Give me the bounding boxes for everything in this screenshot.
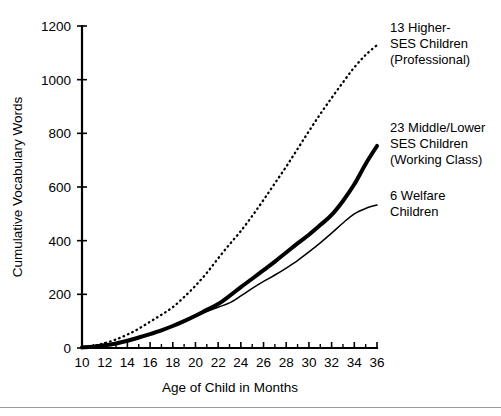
annotation-professional: 13 Higher- SES Children (Professional)	[390, 20, 470, 67]
annotation-professional-line3: (Professional)	[390, 52, 470, 67]
y-tick-label: 0	[63, 341, 71, 356]
annotation-working-line1: 23 Middle/Lower	[390, 120, 486, 135]
x-tick-label: 14	[120, 355, 136, 370]
axis-group: 020040060080010001200 101214161820222426…	[41, 19, 385, 370]
annotation-welfare-line1: 6 Welfare	[390, 188, 445, 203]
annotation-professional-line1: 13 Higher-	[390, 20, 451, 35]
x-tick-label: 20	[188, 355, 203, 370]
x-tick-label: 30	[301, 355, 316, 370]
y-tick-label: 800	[48, 126, 71, 141]
x-axis-tick-labels: 1012141618202224262830323436	[74, 355, 384, 370]
y-axis-title: Cumulative Vocabulary Words	[10, 96, 25, 277]
y-tick-label: 600	[48, 180, 71, 195]
series-line-welfare	[82, 205, 377, 347]
vocabulary-growth-chart: 020040060080010001200 101214161820222426…	[0, 0, 501, 416]
y-tick-label: 400	[48, 234, 71, 249]
footer-divider	[0, 407, 501, 408]
x-tick-label: 10	[74, 355, 89, 370]
y-axis-tick-labels: 020040060080010001200	[41, 19, 71, 356]
annotation-welfare: 6 Welfare Children	[390, 188, 445, 219]
y-tick-label: 1200	[41, 19, 71, 34]
x-tick-label: 26	[256, 355, 271, 370]
x-tick-label: 36	[369, 355, 384, 370]
x-tick-label: 24	[233, 355, 249, 370]
annotation-welfare-line2: Children	[390, 204, 438, 219]
x-tick-label: 16	[143, 355, 158, 370]
x-tick-label: 18	[165, 355, 180, 370]
x-tick-label: 28	[279, 355, 294, 370]
annotation-professional-line2: SES Children	[390, 36, 468, 51]
annotation-working-line3: (Working Class)	[390, 152, 482, 167]
x-tick-label: 32	[324, 355, 339, 370]
x-tick-label: 22	[211, 355, 226, 370]
x-tick-label: 12	[97, 355, 112, 370]
y-tick-label: 200	[48, 287, 71, 302]
annotation-working-line2: SES Children	[390, 136, 468, 151]
x-tick-label: 34	[347, 355, 363, 370]
y-tick-label: 1000	[41, 73, 71, 88]
x-axis-title: Age of Child in Months	[162, 380, 298, 395]
series-group	[82, 45, 377, 347]
series-line-working-class	[82, 146, 377, 348]
annotation-working-class: 23 Middle/Lower SES Children (Working Cl…	[390, 120, 486, 167]
